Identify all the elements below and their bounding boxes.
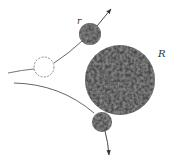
small-sphere-deflected	[92, 112, 112, 132]
outgoing-trajectory-lower	[105, 131, 109, 155]
incoming-trajectory-lower	[14, 83, 94, 113]
outgoing-trajectory-upper	[97, 9, 111, 26]
incoming-trajectory-upper	[8, 69, 34, 73]
label-R: R	[157, 48, 166, 59]
collision-diagram: r R	[0, 0, 175, 162]
large-sphere	[85, 45, 155, 115]
small-sphere-contact	[79, 23, 101, 45]
ghost-sphere	[34, 57, 54, 77]
trajectory-to-contact	[54, 41, 82, 63]
label-r: r	[77, 16, 82, 26]
